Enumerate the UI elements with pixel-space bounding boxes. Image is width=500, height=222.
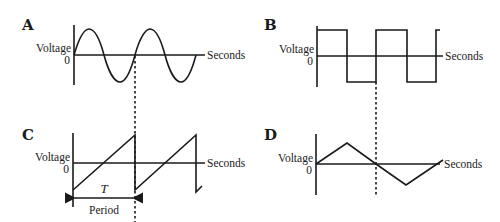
panel-c-seconds-label: Seconds (207, 157, 246, 169)
panel-b: B Voltage 0 Seconds (264, 16, 484, 87)
period-symbol: T (100, 181, 108, 196)
waveform-diagram: A Voltage 0 Seconds B Voltage 0 Seconds … (0, 0, 500, 222)
panel-d-label: D (264, 126, 277, 144)
panel-b-label: B (264, 16, 277, 34)
panel-c-label: C (22, 126, 34, 144)
panel-b-zero-label: 0 (307, 55, 313, 67)
panel-a-seconds-label: Seconds (207, 49, 246, 61)
panel-a-zero-label: 0 (64, 54, 70, 66)
panel-d-zero-label: 0 (306, 164, 312, 176)
panel-d: D Voltage 0 Seconds (264, 126, 483, 195)
panel-b-seconds-label: Seconds (445, 50, 484, 62)
period-label: Period (89, 204, 119, 216)
panel-d-seconds-label: Seconds (444, 158, 483, 170)
panel-c-zero-label: 0 (63, 163, 69, 175)
panel-c: C Voltage 0 Seconds T Period (22, 126, 246, 216)
panel-a: A Voltage 0 Seconds (21, 16, 246, 85)
panel-a-label: A (21, 16, 34, 34)
